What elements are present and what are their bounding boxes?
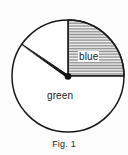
sector-blue-fill (68, 20, 124, 76)
spinner-diagram (0, 0, 128, 155)
sector-blue (68, 20, 124, 76)
spinner-hub (65, 73, 72, 80)
sector-label-green: green (47, 90, 73, 101)
figure-caption: Fig. 1 (0, 139, 128, 149)
spinner-figure: blue green Fig. 1 (0, 0, 128, 155)
sector-label-blue: blue (78, 51, 99, 62)
